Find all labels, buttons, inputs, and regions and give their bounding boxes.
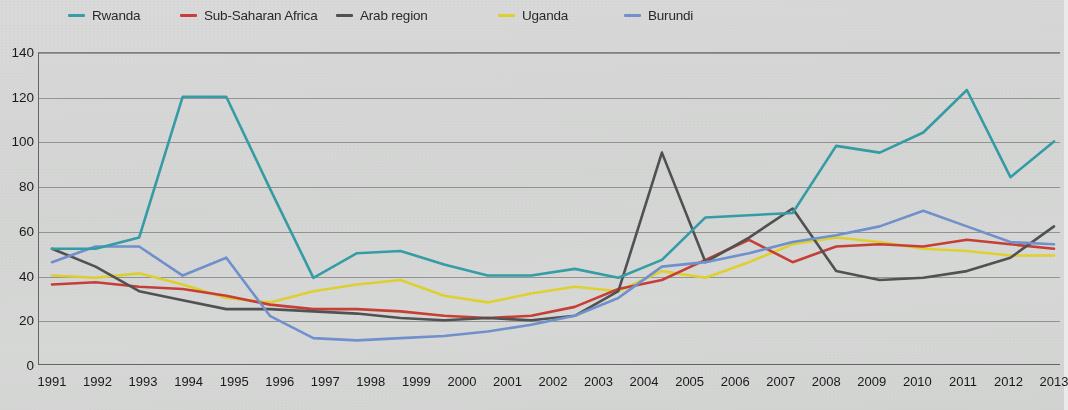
x-axis-tick-label: 2010 — [903, 374, 932, 389]
x-axis-tick-label: 2001 — [493, 374, 522, 389]
series-line-burundi — [52, 211, 1054, 341]
x-axis-tick-label: 1999 — [402, 374, 431, 389]
y-axis-tick-label: 60 — [19, 223, 34, 238]
legend-color-swatch — [68, 14, 85, 17]
x-axis-tick-label: 2011 — [949, 374, 977, 389]
x-axis-tick-label: 2006 — [721, 374, 750, 389]
x-axis-tick-label: 2013 — [1040, 374, 1068, 389]
y-axis-tick-label: 0 — [26, 358, 34, 373]
y-axis-tick-label: 40 — [19, 268, 34, 283]
legend-color-swatch — [498, 14, 515, 17]
x-axis-tick-label: 2009 — [857, 374, 886, 389]
legend-item-burundi[interactable]: Burundi — [624, 8, 693, 23]
x-axis-tick-label: 2004 — [630, 374, 659, 389]
x-axis-tick-label: 2005 — [675, 374, 704, 389]
series-lines — [38, 52, 1060, 365]
legend-item-label: Sub-Saharan Africa — [204, 8, 317, 23]
x-axis-tick-label: 1994 — [174, 374, 203, 389]
legend-item-label: Burundi — [648, 8, 693, 23]
series-line-arab-region — [52, 153, 1054, 321]
y-axis-tick-label: 20 — [19, 313, 34, 328]
legend-item-sub-saharan-africa[interactable]: Sub-Saharan Africa — [180, 8, 317, 23]
legend-item-label: Rwanda — [92, 8, 140, 23]
x-axis-tick-label: 1998 — [356, 374, 385, 389]
y-axis-tick-label: 120 — [11, 89, 34, 104]
x-axis-tick-label: 2000 — [447, 374, 476, 389]
x-axis-tick-label: 2003 — [584, 374, 613, 389]
legend-item-arab-region[interactable]: Arab region — [336, 8, 428, 23]
x-axis-tick-label: 1996 — [265, 374, 294, 389]
legend-item-label: Uganda — [522, 8, 568, 23]
legend-item-label: Arab region — [360, 8, 428, 23]
x-axis-tick-label: 1992 — [83, 374, 112, 389]
legend-color-swatch — [180, 14, 197, 17]
x-axis-tick-label: 2008 — [812, 374, 841, 389]
x-axis-tick-label: 1991 — [38, 374, 67, 389]
series-line-rwanda — [52, 90, 1054, 278]
x-axis-tick-label: 1993 — [129, 374, 158, 389]
chart-legend: RwandaSub-Saharan AfricaArab regionUgand… — [0, 0, 1064, 30]
legend-color-swatch — [624, 14, 641, 17]
legend-item-rwanda[interactable]: Rwanda — [68, 8, 140, 23]
x-axis-labels: 1991199219931994199519961997199819992000… — [38, 368, 1060, 398]
legend-color-swatch — [336, 14, 353, 17]
y-axis-tick-label: 80 — [19, 179, 34, 194]
x-axis-tick-label: 1997 — [311, 374, 340, 389]
y-axis-tick-label: 140 — [11, 45, 34, 60]
x-axis-tick-label: 1995 — [220, 374, 249, 389]
y-axis-labels: 020406080100120140 — [0, 52, 34, 365]
x-axis-tick-label: 2007 — [766, 374, 795, 389]
x-axis-tick-label: 2002 — [539, 374, 568, 389]
x-axis-tick-label: 2012 — [994, 374, 1023, 389]
y-axis-tick-label: 100 — [11, 134, 34, 149]
legend-item-uganda[interactable]: Uganda — [498, 8, 568, 23]
